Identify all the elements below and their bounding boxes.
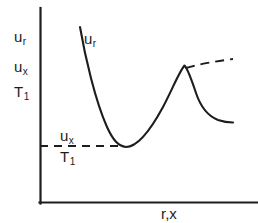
- y-axis-label-ux-base: u: [14, 58, 22, 75]
- asymptote-dashed-line: [186, 59, 233, 68]
- y-axis-label-ux-sub: x: [23, 66, 28, 77]
- curve-label-ur-base: u: [84, 30, 92, 47]
- reference-line-label-t1-sub: 1: [70, 156, 76, 167]
- y-axis-label-ur-sub: r: [23, 36, 26, 47]
- reference-line-label-ux-base: u: [60, 127, 68, 144]
- y-axis-label-t1-base: T: [14, 83, 23, 100]
- curve-label-ur-sub: r: [93, 38, 96, 49]
- y-axis-label-ur: ur: [14, 29, 26, 44]
- velocity-profile-curve: [80, 27, 233, 147]
- y-axis-label-t1-sub: 1: [24, 91, 30, 102]
- reference-line-label-ux-sub: x: [69, 135, 74, 146]
- x-axis-label: r,x: [161, 206, 177, 221]
- reference-line-label-ux: ux: [60, 128, 73, 143]
- y-axis-label-ur-base: u: [14, 28, 22, 45]
- y-axis-label-ux: ux: [14, 59, 27, 74]
- reference-line-label-t1: T1: [60, 149, 75, 164]
- reference-line-label-t1-base: T: [60, 148, 69, 165]
- figure-container: ur ux T1 ux T1 ur r,x: [0, 0, 258, 223]
- y-axis-label-t1: T1: [14, 84, 29, 99]
- plot-canvas: [0, 0, 258, 223]
- curve-label-ur: ur: [84, 31, 96, 46]
